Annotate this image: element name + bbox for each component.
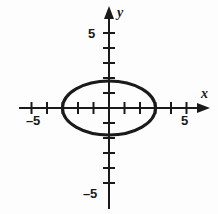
x-axis-tick-label-positive-5: 5 [181, 113, 188, 128]
y-axis-arrowhead-icon [104, 6, 114, 19]
graph-figure: –5 5 5 –5 x y [0, 0, 218, 214]
y-axis-name-label: y [117, 5, 123, 21]
x-axis-tick-label-negative-5: –5 [26, 113, 40, 128]
x-axis-arrowhead-icon [197, 103, 210, 113]
x-axis-name-label: x [201, 86, 208, 102]
y-axis-tick-label-positive-5: 5 [88, 26, 95, 41]
coordinate-plane-svg [0, 0, 218, 214]
y-axis-tick-label-negative-5: –5 [83, 186, 97, 201]
